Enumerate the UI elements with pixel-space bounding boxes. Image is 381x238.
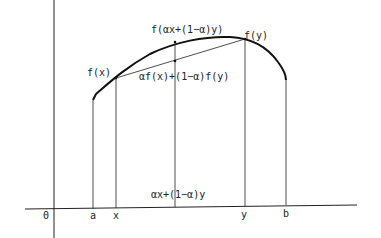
label-chord-mid: αf(x)+(1−α)f(y) bbox=[139, 71, 229, 82]
point-f-mid bbox=[174, 41, 177, 44]
function-curve bbox=[93, 37, 286, 100]
label-b: b bbox=[283, 208, 289, 219]
label-f-mid: f(αx+(1−α)y) bbox=[151, 24, 223, 35]
label-fx: f(x) bbox=[87, 67, 111, 78]
label-x: x bbox=[113, 210, 119, 221]
label-y: y bbox=[241, 209, 247, 220]
point-fx bbox=[115, 77, 118, 80]
concavity-diagram: f(x) f(αx+(1−α)y) f(y) αf(x)+(1−α)f(y) 0… bbox=[0, 0, 381, 238]
label-mid: αx+(1−α)y bbox=[151, 189, 205, 200]
label-fy: f(y) bbox=[244, 30, 268, 41]
label-origin: 0 bbox=[43, 210, 49, 221]
label-a: a bbox=[90, 210, 96, 221]
x-axis bbox=[25, 205, 357, 209]
point-chord-mid bbox=[174, 60, 177, 63]
